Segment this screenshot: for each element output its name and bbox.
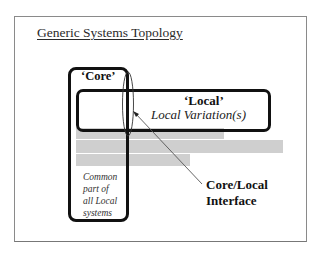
interface-ellipse [123,72,134,136]
connectors-overlay [0,0,321,255]
interface-pointer-line [135,113,202,184]
